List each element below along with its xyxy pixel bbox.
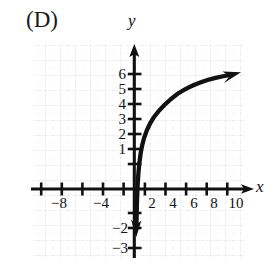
graph-screenshot: (D) xyxy=(0,0,280,271)
y-tick-label-6: 6 xyxy=(119,67,127,82)
x-tick-label-minus-4: −4 xyxy=(93,196,109,211)
x-tick-label-8: 8 xyxy=(210,196,218,211)
x-axis-label: x xyxy=(256,178,264,195)
y-tick-label-5: 5 xyxy=(119,82,127,97)
x-tick-label-2: 2 xyxy=(148,196,156,211)
y-tick-label-1: 1 xyxy=(119,142,127,157)
plot-area: 6 5 4 3 2 1 −2 −3 −8 −4 2 4 6 8 10 y x xyxy=(0,0,280,271)
x-tick-label-4: 4 xyxy=(169,196,177,211)
x-tick-label-10: 10 xyxy=(229,196,244,211)
x-tick-label-minus-8: −8 xyxy=(51,196,67,211)
x-tick-label-6: 6 xyxy=(190,196,198,211)
graph-svg xyxy=(0,0,280,271)
y-tick-label-2: 2 xyxy=(119,127,127,142)
y-axis-label: y xyxy=(128,12,136,29)
y-tick-label-4: 4 xyxy=(119,97,127,112)
y-tick-label-minus-3: −3 xyxy=(112,241,128,256)
y-tick-label-3: 3 xyxy=(119,112,127,127)
y-tick-label-minus-2: −2 xyxy=(112,221,128,236)
